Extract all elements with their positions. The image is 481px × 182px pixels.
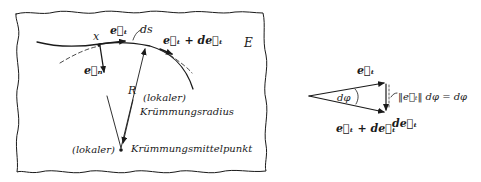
osculating-circle-right (170, 55, 192, 73)
tangent-plus-d-label: e⃗ₜ + de⃗ₜ (163, 34, 223, 47)
radius-line-left (107, 96, 121, 148)
formula-pointer (391, 93, 397, 97)
point-x-label: x (93, 30, 100, 43)
magnitude-formula: ‖e⃗ₜ‖ dφ = dφ (398, 91, 467, 103)
normal-vector-label: e⃗ₙ (84, 64, 103, 77)
lower-vector-label: e⃗ₜ + de⃗ₜ (336, 122, 396, 135)
radius-arrow (121, 49, 145, 148)
radius-desc-2: Krümmungsradius (139, 106, 234, 117)
angle-label: dφ (337, 92, 350, 103)
radius-label: R (127, 84, 136, 97)
difference-vector-label: de⃗ₜ (392, 117, 417, 130)
curvature-diagram: x e⃗ₜ ds e⃗ₜ + de⃗ₜ e⃗ₙ R (lokaler) Krüm… (0, 0, 481, 182)
upper-vector-label: e⃗ₜ (357, 64, 375, 77)
ds-label: ds (140, 23, 153, 36)
frame-label: E (243, 36, 253, 50)
tangent-vector-label: e⃗ₜ (110, 24, 128, 37)
center-point-dot (119, 148, 123, 152)
center-label: Krümmungsmittelpunkt (130, 143, 253, 154)
center-prefix: (lokaler) (72, 144, 115, 155)
radius-desc-1: (lokaler) (143, 92, 186, 103)
osculating-circle (60, 46, 100, 63)
angle-arc (355, 89, 358, 104)
trajectory-curve (37, 42, 193, 89)
radius-arrow-down (123, 100, 133, 143)
